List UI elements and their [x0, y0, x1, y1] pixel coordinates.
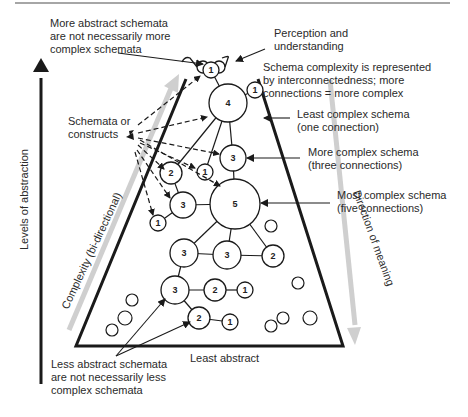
schema-node: 1 — [237, 282, 253, 298]
schema-node: 3 — [161, 276, 189, 304]
svg-text:are not necessarily more: are not necessarily more — [50, 30, 170, 42]
connection-count: 2 — [212, 285, 217, 295]
annotation-perception: Perception and understanding — [274, 27, 348, 52]
unconnected-construct — [265, 320, 277, 332]
schema-node: 3 — [220, 145, 246, 171]
schema-node: 2 — [160, 162, 182, 184]
unconnected-constructs — [106, 220, 317, 336]
schema-node: 1 — [222, 314, 238, 330]
unconnected-construct — [106, 324, 118, 336]
connection-count: 4 — [225, 98, 230, 108]
connection-count: 3 — [181, 248, 186, 258]
connection-count: 3 — [180, 200, 185, 210]
svg-text:Less abstract schemata: Less abstract schemata — [51, 358, 168, 370]
svg-text:connections = more complex: connections = more complex — [263, 87, 404, 99]
connection-count: 1 — [155, 218, 160, 228]
connection-count: 1 — [227, 317, 232, 327]
connection-count: 3 — [230, 153, 235, 163]
annotation-complexity-definition: Schema complexity is represented by inte… — [263, 61, 431, 99]
svg-text:Schema complexity is represent: Schema complexity is represented — [263, 61, 431, 73]
annotation-least-complex: Least complex schema (one connection) — [297, 108, 410, 133]
annotation-most-complex: Most complex schema (five connections) — [337, 189, 447, 214]
connection-count: 5 — [232, 199, 237, 209]
unconnected-construct — [118, 311, 132, 325]
annotation-less-abstract: Less abstract schemata are not necessari… — [51, 358, 168, 396]
svg-text:Most complex schema: Most complex schema — [337, 189, 447, 201]
schema-node: 1 — [247, 82, 263, 98]
svg-text:Perception and: Perception and — [274, 27, 348, 39]
annotation-more-abstract: More abstract schemata are not necessari… — [50, 17, 170, 55]
unconnected-construct — [126, 294, 138, 306]
least-abstract-label: Least abstract — [190, 352, 259, 364]
svg-text:(three connections): (three connections) — [308, 159, 402, 171]
svg-text:understanding: understanding — [274, 40, 344, 52]
connection-count: 3 — [172, 285, 177, 295]
svg-text:More abstract schemata: More abstract schemata — [50, 17, 169, 29]
annotation-schemata-constructs: Schemata or constructs — [68, 115, 131, 140]
svg-text:Schemata or: Schemata or — [68, 115, 131, 127]
connection-count: 3 — [224, 250, 229, 260]
connection-count: 1 — [202, 167, 207, 177]
svg-text:(five connections): (five connections) — [337, 202, 423, 214]
connection-count: 1 — [252, 85, 257, 95]
schema-node: 3 — [170, 239, 198, 267]
svg-text:Least complex schema: Least complex schema — [297, 108, 410, 120]
schema-node: 4 — [209, 84, 247, 122]
svg-text:More complex schema: More complex schema — [308, 146, 420, 158]
connection-count: 1 — [208, 65, 213, 75]
schema-node: 2 — [188, 307, 210, 329]
unconnected-construct — [265, 220, 277, 232]
schema-node: 3 — [213, 241, 241, 269]
svg-text:are not necessarily less: are not necessarily less — [51, 371, 166, 383]
svg-text:(one connection): (one connection) — [297, 121, 379, 133]
svg-text:complex schemata: complex schemata — [51, 384, 144, 396]
levels-of-abstraction-axis — [33, 58, 49, 384]
connection-count: 2 — [168, 168, 173, 178]
unconnected-construct — [292, 277, 304, 289]
diagram-canvas: Levels of abstraction Complexity (bi-dir… — [0, 0, 468, 417]
annotation-more-complex: More complex schema (three connections) — [308, 146, 420, 171]
svg-text:constructs: constructs — [68, 128, 119, 140]
eye-icon — [126, 130, 134, 140]
connection-count: 1 — [242, 285, 247, 295]
unconnected-construct — [277, 312, 289, 324]
schema-node: 2 — [262, 245, 284, 267]
schema-node: 2 — [204, 279, 226, 301]
schema-node: 1 — [203, 62, 219, 78]
schema-node: 3 — [170, 192, 196, 218]
schema-node: 5 — [210, 179, 260, 229]
levels-of-abstraction-label: Levels of abstraction — [18, 149, 30, 250]
connection-count: 2 — [270, 251, 275, 261]
unconnected-construct — [303, 311, 317, 325]
schema-node: 1 — [150, 215, 166, 231]
abstraction-complexity-diagram: Levels of abstraction Complexity (bi-dir… — [0, 0, 468, 417]
svg-text:by interconnectedness; more: by interconnectedness; more — [263, 74, 404, 86]
connection-count: 2 — [196, 313, 201, 323]
svg-text:complex schemata: complex schemata — [50, 43, 143, 55]
